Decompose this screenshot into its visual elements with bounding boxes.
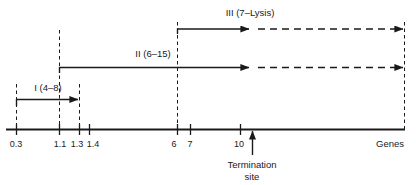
gene-axis — [6, 124, 405, 135]
unit-1-label: I (4–8) — [34, 82, 61, 93]
tick-label-6: 6 — [171, 139, 176, 149]
tick-label-1.3: 1.3 — [71, 139, 84, 149]
tick-label-1.1: 1.1 — [54, 139, 67, 149]
termination-site-label-line1: Termination — [227, 159, 276, 170]
termination-site-label-line2: site — [245, 171, 260, 182]
tick-label-10: 10 — [234, 139, 244, 149]
guide-lines — [17, 22, 405, 129]
unit-3-track — [177, 29, 403, 35]
unit-1-track — [16, 99, 78, 106]
unit-3-label: III (7–Lysis) — [226, 7, 275, 18]
unit-2-label: II (6–15) — [135, 48, 170, 59]
tick-label-1.4: 1.4 — [87, 139, 100, 149]
tick-label-0.3: 0.3 — [10, 139, 23, 149]
unit-2-track — [59, 67, 403, 73]
tick-label-7: 7 — [187, 139, 192, 149]
tick-labels: 0.3 1.1 1.3 1.4 6 7 10 — [10, 139, 244, 149]
diagram-canvas: III (7–Lysis) II (6–15) I (4–8) 0.3 — [0, 0, 416, 185]
transcription-map-figure: III (7–Lysis) II (6–15) I (4–8) 0.3 — [0, 0, 416, 185]
axis-name-label: Genes — [376, 138, 404, 149]
